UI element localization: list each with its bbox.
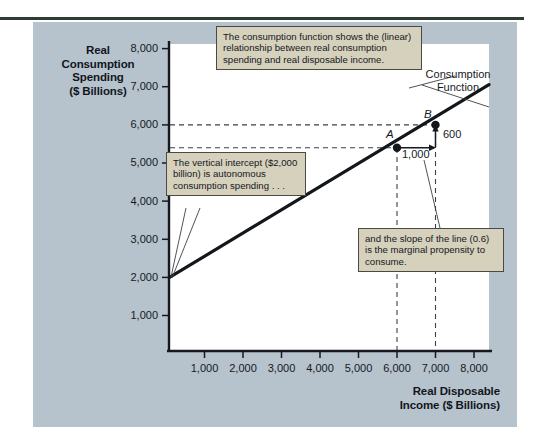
data-point-b [431, 121, 439, 129]
point-a-label: A [386, 128, 394, 140]
callout-vertical-intercept: The vertical intercept ($2,000 billion) … [166, 152, 306, 196]
run-value-label: 1,000 [402, 148, 430, 160]
y-tick-label-8000: 8,000 [114, 42, 158, 54]
x-tick-label-5000: 5,000 [338, 362, 380, 374]
y-tick-label-6000: 6,000 [114, 118, 158, 130]
x-tick-label-6000: 6,000 [376, 362, 418, 374]
point-b-label: B [424, 108, 432, 120]
leader-vertical-intercept-1 [171, 208, 186, 277]
leader-slope-mpc [424, 160, 440, 228]
y-tick-label-3000: 3,000 [114, 233, 158, 245]
consumption-function-figure: Real Consumption Spending ($ Billions) R… [0, 0, 539, 446]
y-tick-label-5000: 5,000 [114, 156, 158, 168]
rise-value-label: 600 [443, 128, 461, 140]
callout-slope-mpc: and the slope of the line (0.6) is the m… [358, 228, 504, 272]
x-axis-title-line-1: Real Disposable [340, 385, 500, 399]
y-tick-label-1000: 1,000 [114, 309, 158, 321]
x-tick-label-3000: 3,000 [261, 362, 303, 374]
curve-name-label: Consumption Function [412, 68, 504, 94]
curve-name-line-1: Consumption [412, 68, 504, 81]
data-point-a [393, 144, 401, 152]
x-tick-label-1000: 1,000 [184, 362, 226, 374]
callout-consumption-function: The consumption function shows the (line… [216, 26, 422, 70]
y-axis-title-line-2: Consumption [40, 58, 156, 72]
y-tick-label-2000: 2,000 [114, 271, 158, 283]
x-axis-title-line-2: Income ($ Billions) [340, 399, 500, 413]
x-tick-label-4000: 4,000 [299, 362, 341, 374]
x-tick-label-7000: 7,000 [415, 362, 457, 374]
x-tick-label-8000: 8,000 [453, 362, 495, 374]
x-tick-label-2000: 2,000 [222, 362, 264, 374]
curve-name-line-2: Function [412, 81, 504, 94]
x-axis-title: Real Disposable Income ($ Billions) [340, 385, 500, 412]
y-tick-label-7000: 7,000 [114, 80, 158, 92]
y-tick-label-4000: 4,000 [114, 195, 158, 207]
